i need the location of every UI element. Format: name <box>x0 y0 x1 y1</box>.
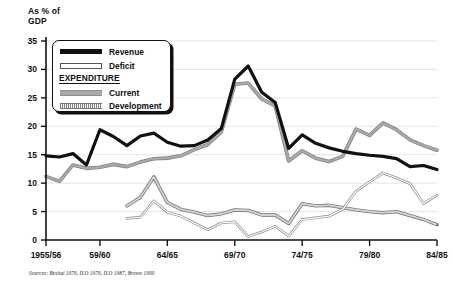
x-tick-label: 1955/56 <box>16 250 76 260</box>
x-tick-label: 79/80 <box>340 250 400 260</box>
legend-label-revenue: Revenue <box>109 47 144 57</box>
legend-item-deficit: Deficit <box>60 60 135 71</box>
y-tick-label: 15 <box>19 150 37 160</box>
x-tick-label: 64/65 <box>137 250 197 260</box>
y-axis-title: As % of GDP <box>28 6 60 26</box>
y-tick-label: 0 <box>19 235 37 245</box>
legend-heading-expenditure: EXPENDITURE <box>59 73 120 84</box>
x-tick-label: 69/70 <box>205 250 265 260</box>
x-tick-label: 59/60 <box>70 250 130 260</box>
legend-item-revenue: Revenue <box>60 46 144 57</box>
legend-swatch-revenue-icon <box>60 49 102 54</box>
y-tick-label: 35 <box>19 36 37 46</box>
legend-label-deficit: Deficit <box>109 61 135 71</box>
x-tick-label: 84/85 <box>407 250 453 260</box>
legend-label-current: Current <box>109 88 139 98</box>
source-note: Sources: Beshai 1976, ILO 1976, ILO 1987… <box>29 270 154 276</box>
legend-item-development: Development <box>60 100 162 111</box>
legend-swatch-deficit-icon <box>60 63 102 69</box>
y-tick-label: 30 <box>19 64 37 74</box>
legend-label-development: Development <box>109 101 162 111</box>
y-tick-label: 5 <box>19 207 37 217</box>
legend-swatch-development-icon <box>60 103 102 109</box>
y-tick-label: 25 <box>19 93 37 103</box>
y-tick-label: 20 <box>19 121 37 131</box>
legend-swatch-current-icon <box>60 90 102 96</box>
x-tick-marks <box>46 240 437 246</box>
chart-legend: Revenue Deficit EXPENDITURE Current Deve… <box>52 40 171 112</box>
y-tick-label: 10 <box>19 178 37 188</box>
series-development <box>127 177 437 225</box>
x-tick-label: 74/75 <box>272 250 332 260</box>
legend-item-current: Current <box>60 87 139 98</box>
